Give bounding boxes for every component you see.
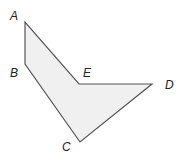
vertex-label-e: E	[83, 66, 92, 80]
vertex-label-b: B	[10, 66, 18, 80]
vertex-label-c: C	[62, 140, 71, 154]
pentagon-abcde	[25, 22, 152, 142]
vertex-label-a: A	[9, 9, 18, 23]
polygon-diagram: A B C D E	[0, 0, 181, 158]
vertex-label-d: D	[165, 78, 174, 92]
